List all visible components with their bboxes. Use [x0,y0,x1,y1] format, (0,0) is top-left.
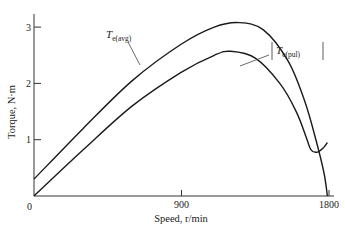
avg-torque-line [34,23,327,196]
y-tick-label: 3 [26,22,31,33]
y-tick-label: 2 [26,78,31,89]
y-tick-label: 1 [26,134,31,145]
x-tick-label: 1800 [319,199,339,210]
avg-leader-line [128,42,140,65]
avg-series-annotation: Te(avg) [106,28,132,43]
x-axis-label: Speed, r/min [154,213,208,224]
axes [34,14,334,196]
y-axis-label: Torque, N·m [6,85,17,139]
x-tick-label: 900 [174,199,189,210]
pul-leader-line [240,55,269,66]
pul-series-annotation: Te(pul) [276,44,301,59]
torque-speed-chart: 123 9001800 0 Speed, r/min Torque, N·m T… [0,0,345,227]
origin-label: 0 [27,201,32,212]
series-lines [34,23,327,196]
x-ticks: 9001800 [174,190,339,210]
pulsating-torque-line [34,51,327,196]
